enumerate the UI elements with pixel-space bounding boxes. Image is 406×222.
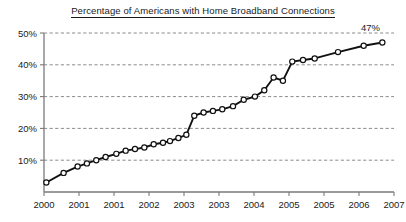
data-point-marker [210, 108, 215, 113]
data-point-marker [160, 140, 165, 145]
data-point-marker [61, 170, 66, 175]
data-point-marker [312, 56, 317, 61]
x-axis-tick-label: 2001 [103, 199, 124, 210]
data-point-marker [361, 43, 366, 48]
x-axis-tick-label: 2005 [313, 199, 334, 210]
x-axis-tick-label: 2002 [138, 199, 159, 210]
y-axis-labels-group: 10%20%30%40%50% [18, 28, 38, 166]
data-point-marker [103, 154, 108, 159]
data-point-marker [167, 139, 172, 144]
x-axis-labels-group: 2000200120012002200320032004200520052006… [33, 199, 404, 210]
data-point-marker [262, 88, 267, 93]
annotations-group: 47% [361, 22, 381, 33]
x-axis-tick-label: 2003 [173, 199, 194, 210]
data-point-marker [241, 97, 246, 102]
data-point-marker [192, 113, 197, 118]
data-point-marker [94, 158, 99, 163]
data-point-marker [84, 161, 89, 166]
data-point-marker [271, 75, 276, 80]
data-point-marker [280, 78, 285, 83]
x-axis-tick-label: 2001 [68, 199, 89, 210]
data-point-marker [380, 40, 385, 45]
end-value-annotation: 47% [361, 22, 381, 33]
y-axis-tick-label: 40% [18, 59, 38, 70]
x-axis-tick-label: 2003 [208, 199, 229, 210]
y-axis-tick-label: 30% [18, 91, 38, 102]
broadband-line-chart: Percentage of Americans with Home Broadb… [0, 0, 406, 222]
data-point-marker [114, 151, 119, 156]
data-point-marker [220, 107, 225, 112]
data-point-marker [184, 132, 189, 137]
x-axis-tick-label: 2007 [383, 199, 404, 210]
data-point-marker [300, 57, 305, 62]
data-point-marker [123, 148, 128, 153]
data-point-marker [142, 145, 147, 150]
chart-plot-area: 10%20%30%40%50% 200020012001200220032003… [0, 0, 406, 222]
x-axis-tick-label: 2005 [278, 199, 299, 210]
data-point-marker [230, 104, 235, 109]
data-point-marker [335, 49, 340, 54]
data-point-marker [290, 59, 295, 64]
data-point-marker [44, 180, 49, 185]
data-point-markers-group [44, 40, 385, 185]
y-axis-tick-label: 10% [18, 155, 38, 166]
x-axis-tick-label: 2004 [243, 199, 264, 210]
data-point-marker [132, 146, 137, 151]
data-point-marker [201, 110, 206, 115]
y-axis-tick-label: 20% [18, 123, 38, 134]
y-axis-tick-label: 50% [18, 28, 38, 39]
data-point-marker [176, 135, 181, 140]
x-axis-tick-label: 2000 [33, 199, 54, 210]
data-point-marker [151, 142, 156, 147]
x-axis-tick-label: 2006 [348, 199, 369, 210]
data-point-marker [75, 164, 80, 169]
data-point-marker [252, 94, 257, 99]
